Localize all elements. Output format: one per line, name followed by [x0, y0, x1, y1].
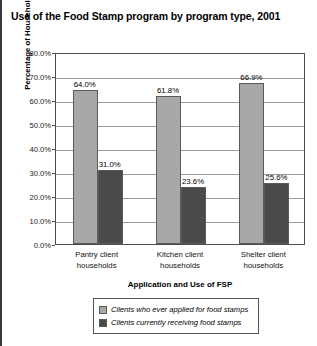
y-tick-label: 20.0% — [3, 193, 51, 202]
page-left-edge — [0, 0, 2, 346]
y-tick-label: 30.0% — [3, 169, 51, 178]
y-tick-label: 70.0% — [3, 73, 51, 82]
bar — [181, 187, 206, 244]
y-tick-mark — [52, 53, 55, 54]
y-tick-mark — [52, 173, 55, 174]
bar-value-label: 25.6% — [265, 173, 287, 182]
bar — [156, 96, 181, 244]
gridline — [56, 78, 304, 79]
y-tick-mark — [52, 245, 55, 246]
bar-value-label: 61.8% — [157, 86, 179, 95]
x-category-label: Shelter client households — [221, 250, 305, 271]
y-tick-label: 80.0% — [3, 49, 51, 58]
y-tick-mark — [52, 221, 55, 222]
y-tick-mark — [52, 149, 55, 150]
y-tick-mark — [52, 125, 55, 126]
y-tick-label: 60.0% — [3, 97, 51, 106]
legend-item-receiving: Clients currently receiving food stamps — [99, 316, 253, 329]
legend-swatch-applied — [99, 306, 107, 314]
bar-value-label: 31.0% — [99, 160, 121, 169]
y-tick-label: 0.0% — [3, 241, 51, 250]
y-tick-mark — [52, 77, 55, 78]
y-tick-mark — [52, 101, 55, 102]
chart-page: Use of the Food Stamp program by program… — [0, 0, 317, 346]
x-axis-title: Application and Use of FSP — [55, 280, 305, 289]
bar-value-label: 66.9% — [240, 73, 262, 82]
bar — [264, 183, 289, 244]
y-tick-label: 10.0% — [3, 217, 51, 226]
bar-value-label: 64.0% — [74, 80, 96, 89]
bar — [73, 90, 98, 244]
x-category-label: Pantry client households — [55, 250, 139, 271]
y-tick-label: 40.0% — [3, 145, 51, 154]
chart-title: Use of the Food Stamp program by program… — [11, 10, 311, 22]
bar — [98, 170, 123, 244]
legend-label-applied: Clients who ever applied for food stamps — [111, 305, 248, 314]
x-category-label: Kitchen client households — [138, 250, 222, 271]
bar-value-label: 23.6% — [182, 177, 204, 186]
y-tick-label: 50.0% — [3, 121, 51, 130]
legend-item-applied: Clients who ever applied for food stamps — [99, 303, 253, 316]
legend-swatch-receiving — [99, 319, 107, 327]
legend-label-receiving: Clients currently receiving food stamps — [111, 318, 241, 327]
bar — [239, 83, 264, 244]
y-tick-mark — [52, 197, 55, 198]
chart-legend: Clients who ever applied for food stamps… — [93, 298, 259, 334]
